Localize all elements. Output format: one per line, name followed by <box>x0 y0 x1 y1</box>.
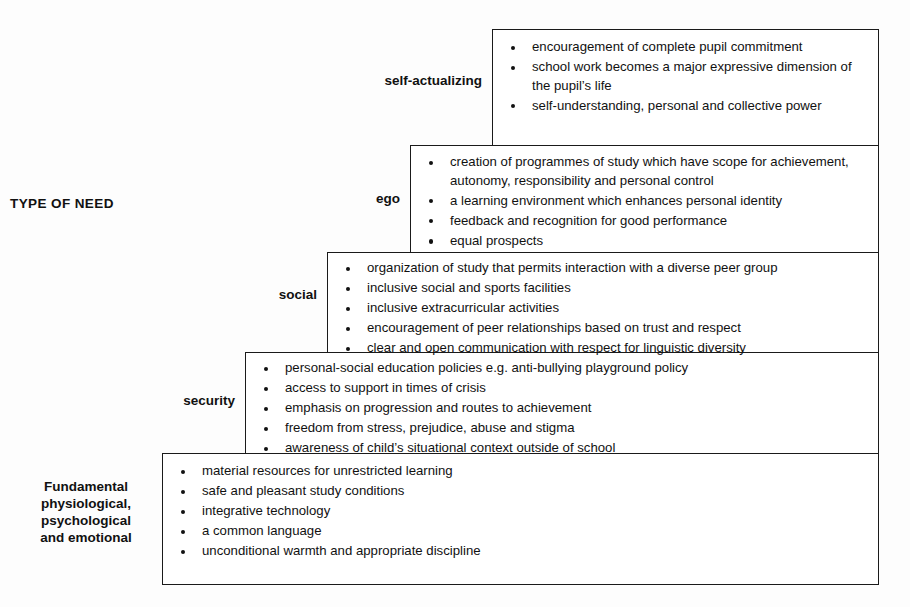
list-item: self-understanding, personal and collect… <box>507 97 868 116</box>
list-item-text: self-understanding, personal and collect… <box>532 98 822 113</box>
tier-label-line: Fundamental <box>20 478 152 495</box>
bullet-icon <box>181 490 185 494</box>
list-item-text: encouragement of complete pupil commitme… <box>532 39 802 54</box>
list-item: unconditional warmth and appropriate dis… <box>177 542 868 561</box>
list-item-text: encouragement of peer relationships base… <box>367 320 741 335</box>
bullet-icon <box>264 407 268 411</box>
tier-label-line: physiological, <box>20 495 152 512</box>
tier-label-line: psychological <box>20 512 152 529</box>
list-item: access to support in times of crisis <box>260 379 868 398</box>
list-item: inclusive extracurricular activities <box>342 299 868 318</box>
list-item: feedback and recognition for good perfor… <box>425 212 868 231</box>
list-item: a common language <box>177 522 868 541</box>
list-item: school work becomes a major expressive d… <box>507 58 868 95</box>
bullet-icon <box>264 387 268 391</box>
tier-label-social: social <box>120 286 317 303</box>
list-item: awareness of child’s situational context… <box>260 439 868 458</box>
list-item: encouragement of complete pupil commitme… <box>507 38 868 57</box>
tier-label-fundamental: Fundamental physiological, psychological… <box>20 478 152 546</box>
bullet-icon <box>511 104 515 108</box>
list-item: organization of study that permits inter… <box>342 259 868 278</box>
list-item: integrative technology <box>177 502 868 521</box>
list-item-text: clear and open communication with respec… <box>367 340 746 355</box>
list-item: inclusive social and sports facilities <box>342 279 868 298</box>
list-item-text: access to support in times of crisis <box>285 380 486 395</box>
bullet-icon <box>346 327 350 331</box>
bullet-icon <box>429 161 433 165</box>
tier-label-line: and emotional <box>20 529 152 546</box>
tier-box-security: personal-social education policies e.g. … <box>245 352 879 454</box>
list-item-text: inclusive extracurricular activities <box>367 300 559 315</box>
tier-list-ego: creation of programmes of study which ha… <box>411 146 878 258</box>
bullet-icon <box>346 267 350 271</box>
list-item-text: equal prospects <box>450 233 543 248</box>
needs-hierarchy-diagram: TYPE OF NEED self-actualizing encouragem… <box>0 0 910 607</box>
list-item: safe and pleasant study conditions <box>177 482 868 501</box>
tier-box-social: organization of study that permits inter… <box>327 252 879 353</box>
tier-box-ego: creation of programmes of study which ha… <box>410 145 879 253</box>
list-item-text: safe and pleasant study conditions <box>202 483 404 498</box>
list-item: a learning environment which enhances pe… <box>425 192 868 211</box>
tier-label-security: security <box>40 392 235 409</box>
list-item-text: creation of programmes of study which ha… <box>450 154 849 188</box>
tier-list-self-actualizing: encouragement of complete pupil commitme… <box>493 30 878 123</box>
list-item: freedom from stress, prejudice, abuse an… <box>260 419 868 438</box>
tier-list-security: personal-social education policies e.g. … <box>246 353 878 465</box>
bullet-icon <box>264 427 268 431</box>
bullet-icon <box>181 550 185 554</box>
list-item-text: a common language <box>202 523 322 538</box>
tier-label-ego: ego <box>200 190 400 207</box>
bullet-icon <box>346 287 350 291</box>
bullet-icon <box>429 239 433 243</box>
list-item: emphasis on progression and routes to ac… <box>260 399 868 418</box>
type-of-need-axis-label: TYPE OF NEED <box>10 196 200 211</box>
tier-label-self-actualizing: self-actualizing <box>280 72 482 89</box>
tier-list-social: organization of study that permits inter… <box>328 253 878 365</box>
list-item-text: freedom from stress, prejudice, abuse an… <box>285 420 575 435</box>
list-item-text: a learning environment which enhances pe… <box>450 193 782 208</box>
list-item-text: inclusive social and sports facilities <box>367 280 571 295</box>
list-item-text: awareness of child’s situational context… <box>285 440 615 455</box>
bullet-icon <box>429 219 433 223</box>
list-item-text: feedback and recognition for good perfor… <box>450 213 727 228</box>
list-item: creation of programmes of study which ha… <box>425 153 868 190</box>
bullet-icon <box>346 307 350 311</box>
list-item-text: school work becomes a major expressive d… <box>532 59 852 93</box>
bullet-icon <box>264 367 268 371</box>
bullet-icon <box>511 46 515 50</box>
list-item-text: organization of study that permits inter… <box>367 260 778 275</box>
bullet-icon <box>346 347 350 351</box>
list-item-text: integrative technology <box>202 503 330 518</box>
list-item-text: unconditional warmth and appropriate dis… <box>202 543 481 558</box>
bullet-icon <box>181 470 185 474</box>
bullet-icon <box>429 199 433 203</box>
bullet-icon <box>511 66 515 70</box>
bullet-icon <box>181 530 185 534</box>
list-item: encouragement of peer relationships base… <box>342 319 868 338</box>
list-item-text: emphasis on progression and routes to ac… <box>285 400 591 415</box>
tier-box-self-actualizing: encouragement of complete pupil commitme… <box>492 29 879 146</box>
bullet-icon <box>181 510 185 514</box>
list-item: clear and open communication with respec… <box>342 339 868 358</box>
bullet-icon <box>264 447 268 451</box>
tier-box-fundamental: material resources for unrestricted lear… <box>162 453 879 585</box>
list-item: equal prospects <box>425 232 868 251</box>
tier-list-fundamental: material resources for unrestricted lear… <box>163 454 878 568</box>
